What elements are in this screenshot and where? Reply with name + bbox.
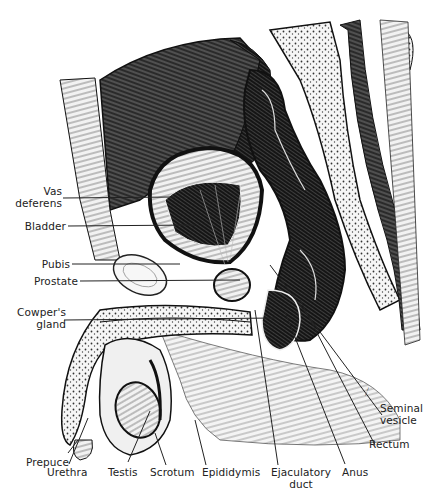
label-urethra: Urethra: [47, 466, 87, 478]
scrotum: [100, 339, 172, 455]
label-line: Vas: [6, 185, 62, 197]
label-line: Seminal: [380, 402, 423, 414]
label-testis: Testis: [108, 466, 138, 478]
anatomy-figure: ∼∼ Vas deferens Bladder Pubis Prostate C…: [0, 0, 436, 500]
label-seminal-vesicle: Seminal vesicle: [380, 402, 423, 426]
label-line: Ejaculatory: [271, 466, 331, 478]
label-line: vesicle: [380, 414, 423, 426]
label-anus: Anus: [342, 466, 368, 478]
label-line: Cowper's: [4, 306, 66, 318]
label-pubis: Pubis: [6, 258, 70, 270]
label-scrotum: Scrotum: [150, 466, 195, 478]
bladder: [150, 148, 262, 265]
label-ejaculatory-duct: Ejaculatory duct: [271, 466, 331, 490]
label-line: deferens: [6, 197, 62, 209]
label-rectum: Rectum: [369, 438, 410, 450]
label-vas-deferens: Vas deferens: [6, 185, 62, 209]
illustration: ∼∼: [0, 0, 436, 500]
label-epididymis: Epididymis: [202, 466, 260, 478]
label-cowpers-gland: Cowper's gland: [4, 306, 66, 330]
label-line: duct: [271, 478, 331, 490]
label-line: gland: [4, 318, 66, 330]
prostate: [214, 269, 250, 301]
label-bladder: Bladder: [6, 220, 66, 232]
label-prostate: Prostate: [6, 275, 78, 287]
